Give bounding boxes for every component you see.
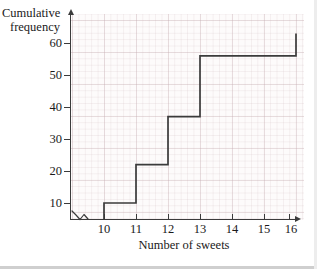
cumulative-frequency-step-line (104, 33, 296, 219)
scan-edge-right (314, 0, 317, 269)
plot-area (0, 0, 317, 269)
chart-canvas: 60 50 40 30 20 10 10 11 12 13 14 15 16 C… (0, 0, 317, 269)
axis-break-zigzag-icon (72, 211, 88, 220)
